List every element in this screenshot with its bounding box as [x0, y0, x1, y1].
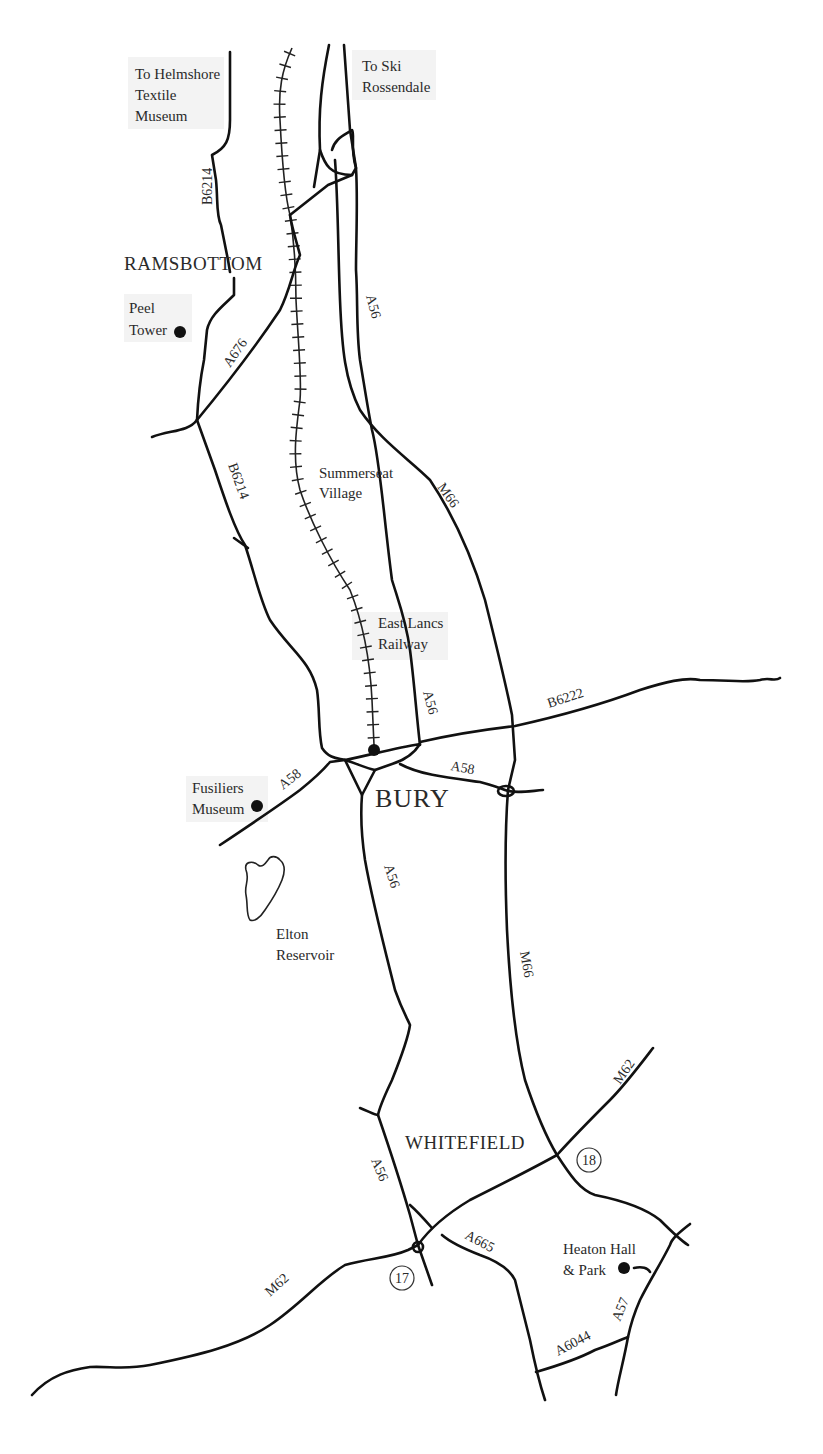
- heaton-hall-marker: [618, 1262, 630, 1274]
- elton-reservoir-outline: [246, 857, 285, 921]
- svg-text:18: 18: [582, 1153, 596, 1168]
- road-label-a58-east: A58: [449, 758, 475, 777]
- railway-ticks: [274, 51, 380, 738]
- road-west-spur: [152, 420, 197, 437]
- road-label-b6214-south: B6214: [225, 461, 252, 501]
- label-elton-reservoir: Elton Reservoir: [276, 926, 334, 963]
- label-summerseat: Summerseat Village: [319, 465, 397, 501]
- roads: [32, 45, 780, 1400]
- road-label-m66-south: M66: [517, 950, 536, 979]
- junction-17-marker: 17: [390, 1266, 414, 1290]
- road-label-b6222: B6222: [545, 685, 585, 711]
- bury-area-map: 18 17 RAMSBOTTOM BURY WHITEFIELD To Helm…: [0, 0, 823, 1454]
- fusiliers-museum-marker: [251, 800, 263, 812]
- road-a665: [442, 1235, 545, 1400]
- road-m66-south: [506, 790, 688, 1245]
- road-bury-central: [345, 744, 420, 770]
- svg-text:17: 17: [395, 1271, 409, 1286]
- town-label-whitefield: WHITEFIELD: [405, 1132, 525, 1153]
- road-label-a676: A676: [220, 336, 250, 370]
- peel-tower-marker: [174, 326, 186, 338]
- road-ramsbottom-connector: [290, 175, 352, 215]
- road-a56-whitefield-spur: [360, 1108, 378, 1115]
- junction-18-marker: 18: [577, 1148, 601, 1172]
- road-b6222: [420, 678, 780, 742]
- road-label-a57: A57: [609, 1295, 632, 1323]
- road-label-b6214-north: B6214: [200, 168, 215, 205]
- road-label-a56-south: A56: [381, 862, 403, 890]
- road-label-a56-whitefield: A56: [368, 1156, 391, 1184]
- road-label-a58-west: A58: [276, 766, 304, 793]
- road-heaton-access: [634, 1267, 650, 1272]
- road-label-a56-bury: A56: [420, 689, 441, 716]
- bury-station-marker: [368, 744, 380, 756]
- label-heaton-hall: Heaton Hall & Park: [563, 1241, 640, 1278]
- road-m62-west: [32, 1245, 418, 1395]
- town-label-bury: BURY: [375, 784, 450, 813]
- road-label-a56-north: A56: [363, 293, 384, 320]
- road-label-m62-west: M62: [262, 1270, 292, 1299]
- town-label-ramsbottom: RAMSBOTTOM: [124, 253, 263, 274]
